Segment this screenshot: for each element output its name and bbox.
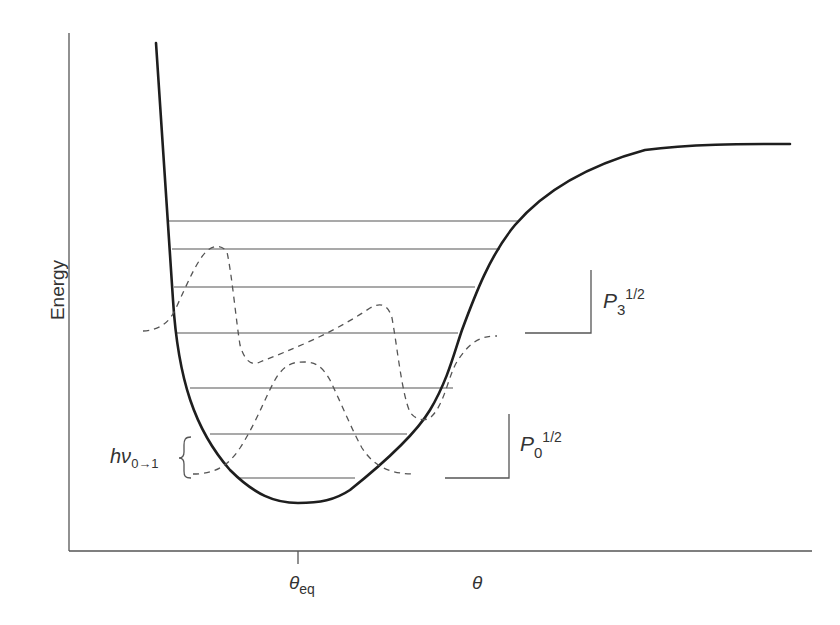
p0-bracket: [445, 414, 509, 478]
theta-eq-label: θeq: [289, 572, 315, 597]
transition-brace: [179, 437, 191, 478]
p3-bracket: [525, 270, 591, 333]
potential-energy-diagram: Energy θeq θ P31/2 P01/2 hν0→1: [0, 0, 840, 625]
y-axis-label: Energy: [47, 259, 68, 320]
p3-bracket-line: [525, 270, 591, 333]
p0-bracket-line: [445, 414, 509, 478]
x-axis-label: θ: [472, 572, 483, 593]
p0-label: P01/2: [520, 429, 562, 461]
axes: [69, 33, 812, 564]
p3-label: P31/2: [603, 286, 645, 318]
ground-state-wavefunction: [193, 362, 415, 474]
energy-levels: [168, 221, 518, 478]
transition-energy-label: hν0→1: [110, 445, 159, 471]
